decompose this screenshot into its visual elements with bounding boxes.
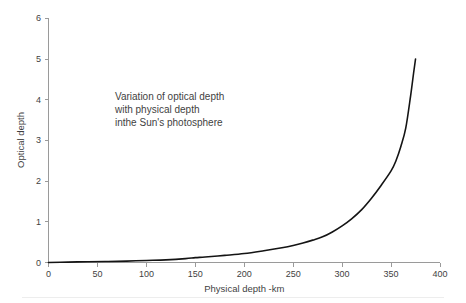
y-tick-label: 0: [36, 258, 41, 268]
x-tick-label: 150: [188, 269, 203, 279]
x-tick-label: 0: [46, 269, 51, 279]
y-tick-label: 6: [36, 13, 41, 23]
x-tick-label: 50: [92, 269, 102, 279]
x-tick-label: 350: [384, 269, 399, 279]
x-tick-label: 200: [237, 269, 252, 279]
x-tick-label: 400: [432, 269, 447, 279]
annotation-line-3: inthe Sun's photosphere: [115, 117, 223, 128]
x-tick-label: 250: [286, 269, 301, 279]
chart-background: [0, 0, 466, 303]
optical-depth-line-chart: 0 1 2 3 4 5 6 0 50 100 150 200 25: [0, 0, 466, 303]
y-tick-label: 1: [36, 217, 41, 227]
x-axis-title: Physical depth -km: [204, 283, 284, 294]
y-tick-label: 5: [36, 54, 41, 64]
y-tick-label: 2: [36, 176, 41, 186]
x-tick-label: 100: [139, 269, 154, 279]
y-tick-label: 3: [36, 135, 41, 145]
chart-figure: 0 1 2 3 4 5 6 0 50 100 150 200 25: [0, 0, 466, 303]
annotation-line-1: Variation of optical depth: [115, 91, 224, 102]
annotation-line-2: with physical depth: [114, 104, 200, 115]
y-tick-label: 4: [36, 95, 41, 105]
x-tick-label: 300: [335, 269, 350, 279]
y-axis-title: Optical depth: [15, 112, 26, 168]
